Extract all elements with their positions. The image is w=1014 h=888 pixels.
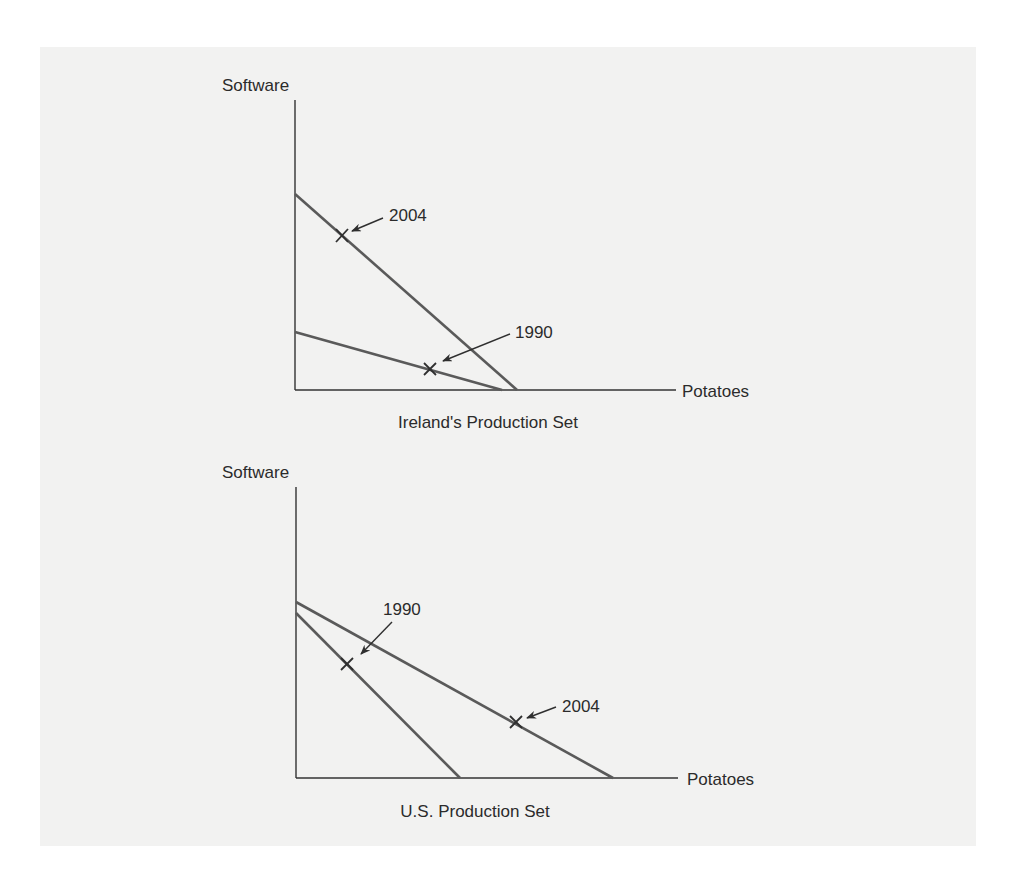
us-marker-label-2004: 2004: [562, 697, 600, 716]
ireland-y-axis-label: Software: [222, 76, 289, 95]
ireland-marker-label-1990: 1990: [515, 323, 553, 342]
ireland-marker-label-2004: 2004: [389, 206, 427, 225]
us-arrow-1990-icon: [361, 622, 392, 654]
us-arrow-2004-icon: [527, 707, 556, 718]
us-production-set-chart: Software Potatoes 1990 2004 U.S. Product…: [222, 463, 754, 821]
us-frontier-2004: [296, 602, 613, 778]
ireland-chart-caption: Ireland's Production Set: [398, 413, 578, 432]
ireland-production-set-chart: Software Potatoes 2004 1990 Ireland's Pr…: [222, 76, 749, 432]
us-chart-caption: U.S. Production Set: [400, 802, 550, 821]
us-x-axis-label: Potatoes: [687, 770, 754, 789]
ireland-x-axis-label: Potatoes: [682, 382, 749, 401]
us-marker-label-1990: 1990: [383, 600, 421, 619]
ireland-marker-2004: 2004: [336, 206, 427, 242]
ireland-arrow-2004-icon: [352, 218, 383, 231]
ireland-arrow-1990-icon: [443, 334, 510, 361]
ireland-frontier-1990: [295, 332, 502, 390]
us-y-axis-label: Software: [222, 463, 289, 482]
ireland-marker-1990: 1990: [424, 323, 553, 375]
us-frontier-1990: [296, 613, 460, 778]
us-marker-2004: 2004: [510, 697, 600, 728]
production-sets-figure: Software Potatoes 2004 1990 Ireland's Pr…: [0, 0, 1014, 888]
